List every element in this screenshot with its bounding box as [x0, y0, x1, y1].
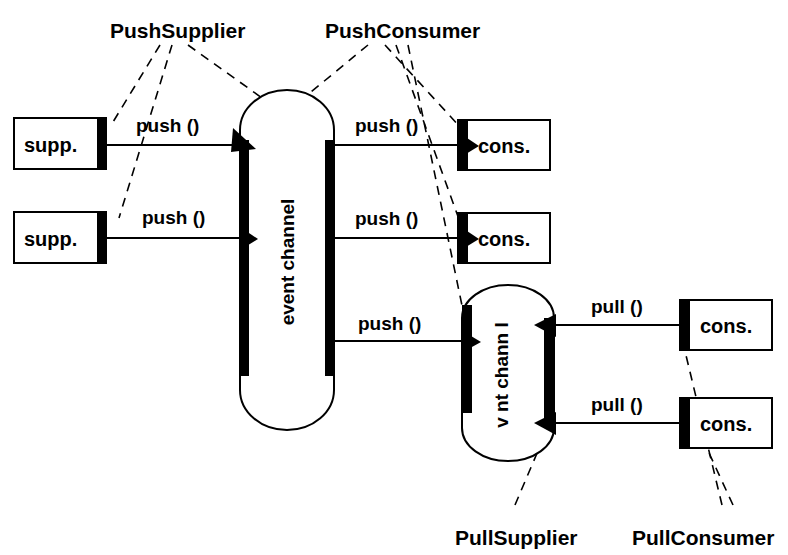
op-label-pull-1: pull ()	[591, 296, 643, 317]
push-event-channel[interactable]: event channel	[239, 90, 335, 430]
supplier-box-2[interactable]: supp.	[14, 212, 106, 263]
diagram-canvas: event channel v nt chann l supp. supp. c…	[0, 0, 788, 555]
role-label-pull-supplier: PullSupplier	[455, 526, 578, 549]
leader-pushsupplier-to-supp1	[113, 45, 160, 122]
supplier-box-1[interactable]: supp.	[14, 118, 106, 169]
pull-event-channel[interactable]: v nt chann l	[462, 285, 554, 461]
connector-lines	[105, 145, 680, 423]
push-channel-right-bar	[325, 140, 335, 376]
pull-cons2-label: cons.	[700, 413, 752, 435]
role-label-push-consumer: PushConsumer	[325, 19, 480, 42]
op-label-push-cons-1: push ()	[355, 115, 418, 136]
pull-consumer-box-2[interactable]: cons.	[680, 398, 772, 448]
pull-channel-label: v nt chann l	[491, 322, 512, 428]
push-channel-label: event channel	[277, 199, 298, 326]
push-channel-left-bar	[239, 140, 249, 376]
push-cons2-label: cons.	[478, 228, 530, 250]
pull-channel-left-bar	[462, 305, 472, 413]
push-cons1-label: cons.	[478, 135, 530, 157]
pull-consumer-box-1[interactable]: cons.	[680, 300, 772, 350]
leader-pushconsumer-to-pullchannel-left-bar	[408, 45, 465, 320]
role-label-push-supplier: PushSupplier	[110, 19, 245, 42]
supp2-interface-bar	[97, 212, 106, 263]
role-label-pull-consumer: PullConsumer	[632, 526, 774, 549]
supp1-label: supp.	[24, 134, 77, 156]
pull-cons1-label: cons.	[700, 315, 752, 337]
pull-cons1-interface-bar	[680, 300, 690, 350]
supp2-label: supp.	[24, 228, 77, 250]
op-label-push-cons-2: push ()	[355, 208, 418, 229]
supp1-interface-bar	[97, 118, 106, 169]
pull-cons2-interface-bar	[680, 398, 690, 448]
op-label-push-supp-1: push ()	[136, 115, 199, 136]
event-channel-diagram: event channel v nt chann l supp. supp. c…	[0, 0, 788, 555]
op-label-push-supp-2: push ()	[142, 207, 205, 228]
op-label-pull-2: pull ()	[591, 394, 643, 415]
op-label-push-cons-3: push ()	[358, 313, 421, 334]
